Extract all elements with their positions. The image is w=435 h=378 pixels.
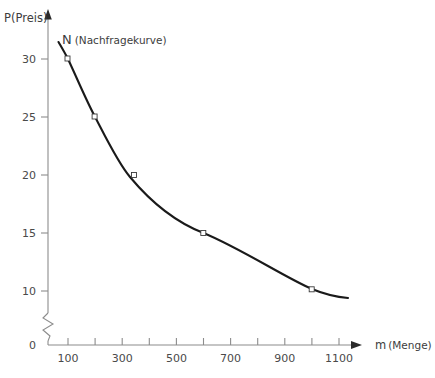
x-axis-title: m(Menge) xyxy=(375,338,432,352)
chart-canvas: 30 25 20 15 10 0 P(Preis) 1 xyxy=(0,0,435,378)
x-tick-label-500: 500 xyxy=(166,352,187,365)
y-tick-label-25: 25 xyxy=(22,111,36,124)
y-tick-label-30: 30 xyxy=(22,53,36,66)
curve-label-symbol: N xyxy=(62,32,72,47)
y-axis-group: 30 25 20 15 10 0 P(Preis) xyxy=(4,9,53,352)
data-point-marker-600-15 xyxy=(201,231,206,236)
demand-curve-chart: 30 25 20 15 10 0 P(Preis) 1 xyxy=(0,0,435,378)
x-tick-label-100: 100 xyxy=(58,352,79,365)
data-point-marker-200-25 xyxy=(92,114,97,119)
y-tick-label-15: 15 xyxy=(22,227,36,240)
x-tick-label-700: 700 xyxy=(220,352,241,365)
x-axis-title-symbol: m xyxy=(375,338,386,352)
x-tick-label-900: 900 xyxy=(274,352,295,365)
y-tick-label-0: 0 xyxy=(29,339,36,352)
data-point-marker-100-30 xyxy=(65,56,70,61)
x-tick-label-1100: 1100 xyxy=(325,352,353,365)
y-axis-title: P(Preis) xyxy=(4,11,47,25)
y-axis-break-icon xyxy=(43,313,53,341)
y-tick-label-20: 20 xyxy=(22,169,36,182)
data-point-marker-1000-10 xyxy=(309,287,314,292)
x-axis-arrow-icon xyxy=(351,341,362,349)
x-axis-group: 100 300 500 700 900 1100 m(Menge) xyxy=(48,338,432,365)
demand-curve-path xyxy=(59,42,349,298)
data-point-marker-350-20 xyxy=(132,173,137,178)
y-tick-label-10: 10 xyxy=(22,285,36,298)
curve-label-text: (Nachfragekurve) xyxy=(75,34,167,46)
x-tick-label-300: 300 xyxy=(112,352,133,365)
curve-label: N(Nachfragekurve) xyxy=(62,32,167,47)
demand-curve-series xyxy=(59,42,349,298)
x-axis-title-text: (Menge) xyxy=(388,339,432,351)
